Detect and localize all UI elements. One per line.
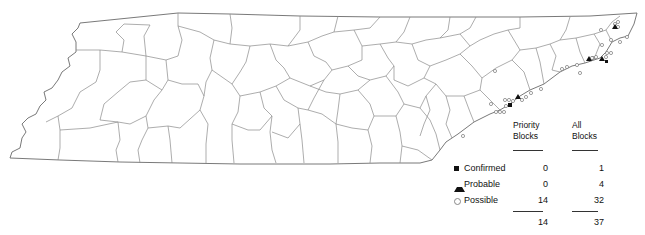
all-value: 32 bbox=[574, 194, 604, 206]
header-text: Blocks bbox=[513, 131, 539, 142]
header-text: Priority bbox=[513, 120, 539, 131]
square-filled-icon bbox=[454, 166, 459, 171]
legend-row-confirmed: Confirmed 0 1 bbox=[452, 162, 642, 174]
header-text: All bbox=[572, 120, 597, 131]
priority-value: 0 bbox=[514, 162, 548, 174]
observation-symbols bbox=[461, 20, 628, 137]
row-label: Confirmed bbox=[464, 162, 506, 174]
priority-blocks-header: Priority Blocks bbox=[513, 120, 539, 142]
all-value: 1 bbox=[574, 162, 604, 174]
header-text: Blocks bbox=[572, 131, 597, 142]
header-rule bbox=[513, 150, 543, 151]
priority-total: 14 bbox=[514, 216, 548, 228]
total-rule bbox=[572, 211, 598, 212]
row-label: Possible bbox=[464, 194, 498, 206]
header-rule bbox=[572, 150, 598, 151]
legend-row-total: 14 37 bbox=[452, 216, 642, 228]
total-rule bbox=[513, 211, 543, 212]
all-value: 4 bbox=[574, 178, 604, 190]
priority-value: 14 bbox=[514, 194, 548, 206]
row-label: Probable bbox=[464, 178, 500, 190]
legend-row-probable: Probable 0 4 bbox=[452, 178, 642, 190]
all-total: 37 bbox=[574, 216, 604, 228]
priority-value: 0 bbox=[514, 178, 548, 190]
legend-row-possible: Possible 14 32 bbox=[452, 194, 642, 206]
circle-open-icon bbox=[454, 198, 461, 205]
all-blocks-header: All Blocks bbox=[572, 120, 597, 142]
